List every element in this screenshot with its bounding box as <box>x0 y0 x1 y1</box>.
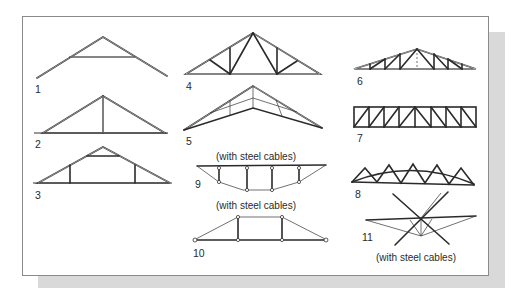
truss-label-1: 1 <box>35 83 41 95</box>
truss-label-10: 10 <box>193 247 205 259</box>
truss-label-8: 8 <box>355 188 361 200</box>
truss-diagram-canvas: 1 2 3 4 5 <box>0 0 512 300</box>
truss-label-3: 3 <box>35 189 41 201</box>
truss-label-6: 6 <box>357 75 363 87</box>
truss-label-2: 2 <box>35 138 41 150</box>
truss-diagram: 1 2 3 4 5 <box>0 0 512 300</box>
truss-label-4: 4 <box>186 80 192 92</box>
truss-caption-9: (with steel cables) <box>216 151 296 162</box>
truss-label-11: 11 <box>362 231 373 243</box>
truss-label-9: 9 <box>195 178 201 190</box>
truss-label-5: 5 <box>186 135 192 147</box>
truss-caption-10: (with steel cables) <box>216 200 296 211</box>
truss-label-7: 7 <box>357 132 363 144</box>
frame <box>23 17 489 276</box>
truss-caption-11: (with steel cables) <box>376 252 456 263</box>
